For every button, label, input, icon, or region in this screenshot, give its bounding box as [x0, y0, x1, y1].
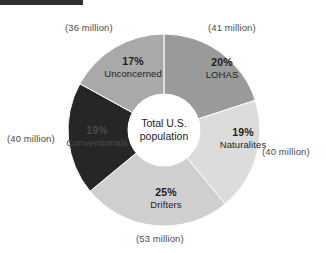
callout-conventionals: (40 million)	[7, 133, 55, 144]
callout-drifters: (53 million)	[136, 233, 184, 244]
center-hub-line-1: Total U.S.	[141, 117, 187, 130]
pie-chart: Total U.S. population 20% LOHAS 19% Natu…	[0, 0, 326, 253]
center-hub-line-2: population	[140, 130, 188, 143]
callout-lohas: (41 million)	[208, 22, 256, 33]
callout-naturalites: (40 million)	[262, 146, 310, 157]
center-hub: Total U.S. population	[128, 94, 200, 166]
callout-unconcerned: (36 million)	[65, 22, 113, 33]
